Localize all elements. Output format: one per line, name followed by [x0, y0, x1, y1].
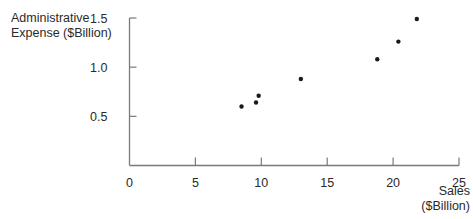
data-point [415, 17, 419, 21]
data-point [239, 104, 243, 108]
x-axis-label: Sales ($Billion) [421, 184, 470, 214]
x-axis-ticks: 0510152025 [126, 158, 466, 190]
x-tick-label: 15 [320, 176, 334, 190]
x-tick-label: 20 [386, 176, 400, 190]
data-point [256, 93, 260, 97]
y-tick-label: 0.5 [90, 110, 107, 124]
scatter-plot: 0.51.01.5 0510152025 [0, 0, 473, 219]
data-point [299, 77, 303, 81]
x-tick-label: 5 [192, 176, 199, 190]
axes [130, 18, 460, 166]
x-axis-label-line1: Sales [421, 184, 470, 199]
x-tick-label: 10 [254, 176, 268, 190]
x-tick-label: 0 [126, 176, 133, 190]
data-points [239, 17, 419, 109]
y-tick-label: 1.0 [90, 61, 107, 75]
y-tick-label: 1.5 [90, 12, 107, 26]
data-point [375, 57, 379, 61]
x-axis-label-line2: ($Billion) [421, 199, 470, 214]
data-point [254, 100, 258, 104]
data-point [396, 39, 400, 43]
